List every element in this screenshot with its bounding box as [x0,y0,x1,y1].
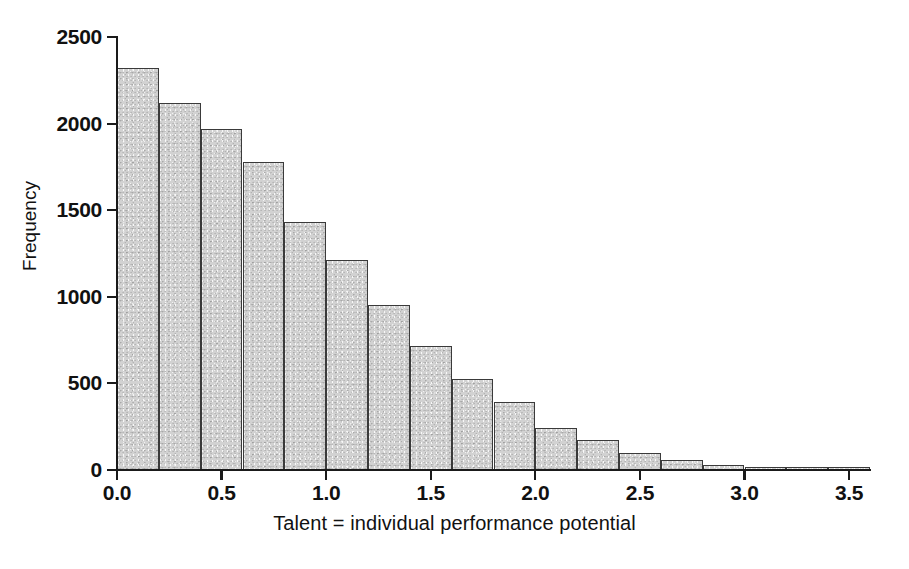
plot-area [117,37,870,470]
x-axis-tick-label: 0.5 [177,482,267,503]
x-axis-tick [220,471,222,480]
y-axis-tick [107,469,116,471]
histogram-bar [117,68,159,470]
bars-container [117,37,870,470]
histogram-bar [619,453,661,470]
y-axis-tick [107,209,116,211]
x-axis-tick-label: 3.5 [804,482,894,503]
histogram-bar [284,222,326,470]
x-axis-tick-label: 1.0 [281,482,371,503]
y-axis-title: Frequency [19,166,41,286]
histogram-bar [577,440,619,470]
x-axis-line [116,469,871,471]
x-axis-title: Talent = individual performance potentia… [0,512,909,535]
y-axis-tick-label: 500 [68,372,102,393]
histogram-bar [535,428,577,470]
y-axis-tick [107,36,116,38]
histogram-bar [494,402,536,470]
x-axis-tick [534,471,536,480]
x-axis-tick-label: 2.5 [595,482,685,503]
y-axis-tick [107,382,116,384]
y-axis-tick-label: 1500 [56,199,102,220]
x-axis-tick-label: 3.0 [700,482,790,503]
histogram-bar [159,103,201,470]
histogram-bar [452,379,494,470]
y-axis-tick [107,123,116,125]
x-axis-tick-label: 2.0 [490,482,580,503]
x-axis-tick-label: 1.5 [386,482,476,503]
histogram-bar [243,162,285,470]
y-axis-tick-label: 1000 [56,286,102,307]
x-axis-tick [743,471,745,480]
x-axis-tick-label: 0.0 [72,482,162,503]
x-axis-tick [430,471,432,480]
y-axis-line [116,36,118,472]
histogram-figure: 05001000150020002500 0.00.51.01.52.02.53… [0,0,909,569]
y-axis-tick [107,296,116,298]
histogram-bar [201,129,243,470]
x-axis-tick [325,471,327,480]
x-axis-tick [848,471,850,480]
x-axis-tick [116,471,118,480]
histogram-bar [410,346,452,470]
histogram-bar [326,260,368,470]
y-axis-tick-label: 2000 [56,113,102,134]
y-axis-tick-label: 0 [91,459,102,480]
x-axis-tick [639,471,641,480]
y-axis-tick-label: 2500 [56,26,102,47]
histogram-bar [368,305,410,470]
